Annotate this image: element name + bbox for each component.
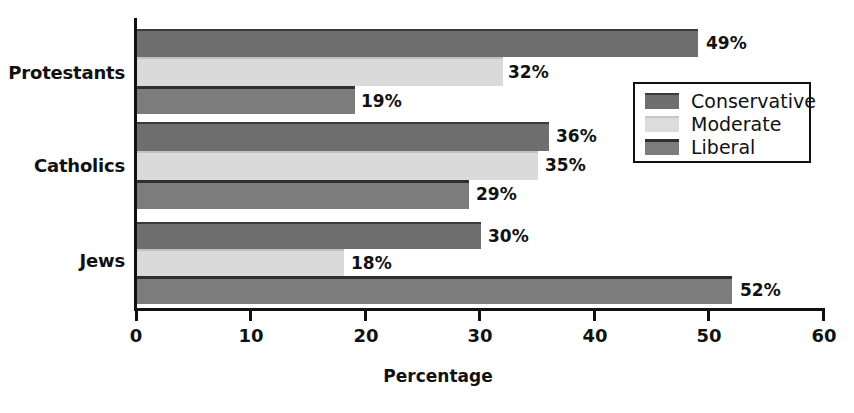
legend: Conservative Moderate Liberal — [633, 82, 811, 163]
bar-protestants-liberal — [137, 86, 355, 114]
legend-label-moderate: Moderate — [691, 115, 781, 134]
x-tick-mark-50 — [707, 311, 710, 321]
value-label-protestants-liberal: 19% — [361, 93, 402, 110]
category-label-jews: Jews — [80, 250, 125, 271]
x-tick-mark-30 — [478, 311, 481, 321]
bar-chart: Protestants Catholics Jews 49% 32% 19% 3… — [0, 0, 854, 413]
x-tick-label-10: 10 — [238, 325, 263, 346]
value-label-catholics-conservative: 36% — [556, 128, 597, 145]
legend-swatch-liberal-icon — [645, 139, 679, 155]
x-tick-label-50: 50 — [696, 325, 721, 346]
x-tick-label-30: 30 — [467, 325, 492, 346]
bar-catholics-conservative — [137, 122, 549, 151]
value-label-catholics-moderate: 35% — [545, 157, 586, 174]
x-axis-title: Percentage — [0, 366, 854, 386]
bar-protestants-conservative — [137, 29, 698, 57]
x-tick-label-40: 40 — [582, 325, 607, 346]
legend-item-conservative[interactable]: Conservative — [645, 90, 816, 112]
legend-label-liberal: Liberal — [691, 138, 755, 157]
legend-swatch-conservative-icon — [645, 93, 679, 109]
category-label-protestants: Protestants — [8, 62, 125, 83]
x-tick-mark-20 — [364, 311, 367, 321]
bar-jews-conservative — [137, 222, 481, 249]
legend-label-conservative: Conservative — [691, 92, 816, 111]
value-label-protestants-moderate: 32% — [508, 64, 549, 81]
x-tick-mark-40 — [593, 311, 596, 321]
x-tick-label-0: 0 — [130, 325, 143, 346]
x-tick-mark-0 — [135, 311, 138, 321]
value-label-jews-conservative: 30% — [488, 228, 529, 245]
value-label-jews-moderate: 18% — [351, 255, 392, 272]
bar-jews-liberal — [137, 276, 732, 304]
legend-item-liberal[interactable]: Liberal — [645, 136, 755, 158]
x-tick-mark-10 — [249, 311, 252, 321]
legend-item-moderate[interactable]: Moderate — [645, 113, 781, 135]
x-tick-label-60: 60 — [811, 325, 836, 346]
x-tick-label-20: 20 — [353, 325, 378, 346]
x-tick-mark-60 — [822, 311, 825, 321]
y-axis-line — [134, 18, 137, 311]
bar-protestants-moderate — [137, 57, 503, 86]
x-axis-title-text: Percentage — [383, 366, 492, 386]
bar-catholics-moderate — [137, 151, 538, 180]
value-label-catholics-liberal: 29% — [476, 186, 517, 203]
bar-catholics-liberal — [137, 180, 469, 209]
bar-jews-moderate — [137, 249, 344, 276]
legend-swatch-moderate-icon — [645, 116, 679, 132]
value-label-protestants-conservative: 49% — [706, 35, 747, 52]
value-label-jews-liberal: 52% — [740, 282, 781, 299]
category-label-catholics: Catholics — [34, 155, 125, 176]
